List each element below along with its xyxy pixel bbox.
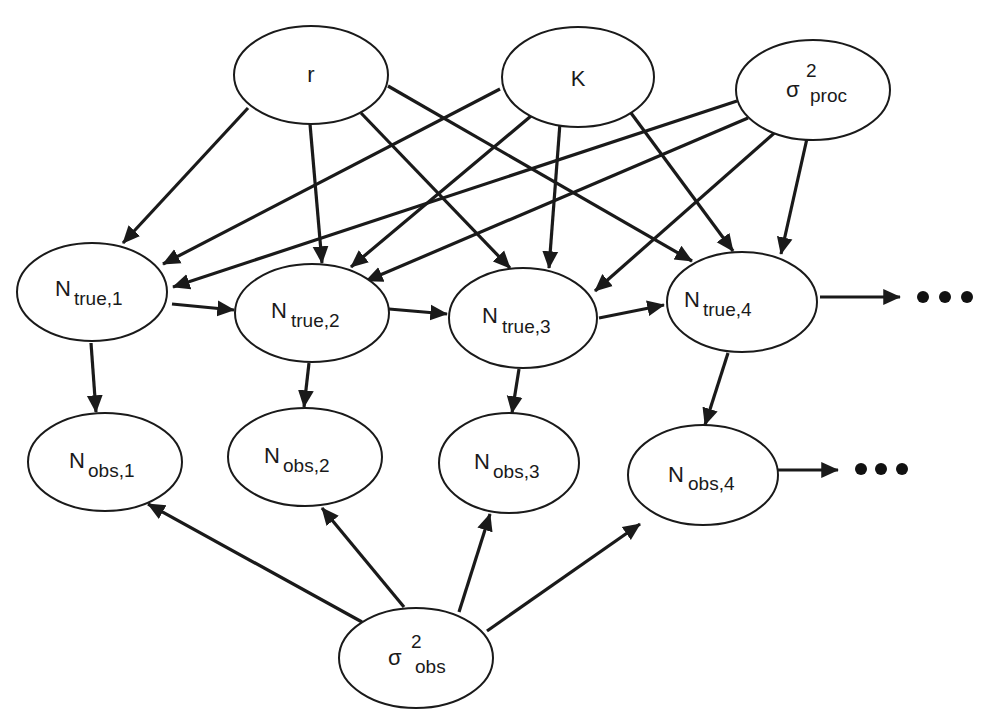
node-nobs2-base: N <box>264 443 280 468</box>
edge-ntrue3-to-ntrue4 <box>599 305 664 318</box>
continuation-true-dots-icon <box>917 291 973 303</box>
node-sigma-obs-base: σ <box>388 645 402 670</box>
node-ntrue1: N true,1 <box>17 243 167 341</box>
node-sigma-proc: σ 2 proc <box>736 40 890 140</box>
node-nobs3-sub: obs,3 <box>493 461 539 482</box>
node-ntrue2-sub: true,2 <box>291 310 340 331</box>
edge-ntrue1-to-ntrue2 <box>172 304 234 310</box>
node-sigma-proc-sub: proc <box>810 85 847 106</box>
node-K: K <box>502 27 654 127</box>
node-ntrue1-sub: true,1 <box>74 288 123 309</box>
node-sigma-obs: σ 2 obs <box>339 608 493 708</box>
edge-ntrue3-to-nobs3 <box>512 369 519 413</box>
node-ntrue4-sub: true,4 <box>703 299 752 320</box>
node-nobs1: N obs,1 <box>28 413 182 511</box>
edge-K-to-ntrue3 <box>549 123 560 268</box>
edge-sigmaobs-to-nobs3 <box>459 514 490 612</box>
node-nobs2-sub: obs,2 <box>283 455 329 476</box>
node-r: r <box>234 26 388 124</box>
node-ntrue4-base: N <box>684 287 700 312</box>
node-nobs4-sub: obs,4 <box>688 473 735 494</box>
state-space-model-diagram: r K σ 2 proc N true,1 N true,2 N true,3 … <box>0 0 990 726</box>
node-ntrue2-base: N <box>271 298 287 323</box>
node-ntrue3-base: N <box>482 303 498 328</box>
edge-sigmaobs-to-nobs4 <box>487 524 640 631</box>
node-sigma-obs-sup: 2 <box>411 631 422 652</box>
node-sigma-proc-sup: 2 <box>806 60 817 81</box>
edge-r-to-ntrue3 <box>361 113 510 268</box>
node-sigma-proc-base: σ <box>786 77 800 102</box>
edge-ntrue2-to-ntrue3 <box>389 309 447 314</box>
node-ntrue4: N true,4 <box>667 252 817 352</box>
node-ntrue3-sub: true,3 <box>502 316 551 337</box>
edge-ntrue1-to-nobs1 <box>91 343 96 412</box>
node-K-label: K <box>571 66 586 91</box>
node-ntrue1-base: N <box>55 276 71 301</box>
edge-sigmaproc-to-ntrue4 <box>781 134 808 254</box>
node-nobs4-base: N <box>668 462 684 487</box>
edge-ntrue2-to-nobs2 <box>304 363 309 407</box>
node-ntrue3: N true,3 <box>449 268 597 368</box>
edge-sigmaobs-to-nobs2 <box>322 508 404 607</box>
node-nobs4: N obs,4 <box>628 425 778 525</box>
node-sigma-obs-sub: obs <box>415 656 446 677</box>
node-nobs1-sub: obs,1 <box>88 460 134 481</box>
node-nobs3-base: N <box>474 449 490 474</box>
node-ntrue2: N true,2 <box>235 264 389 362</box>
edge-ntrue4-to-nobs4 <box>705 353 728 425</box>
node-nobs3: N obs,3 <box>439 413 579 513</box>
node-r-label: r <box>307 62 314 87</box>
node-nobs2: N obs,2 <box>228 408 382 506</box>
edge-sigmaobs-to-nobs1 <box>148 504 362 622</box>
edge-sigmaproc-to-ntrue1 <box>173 101 737 287</box>
edge-K-to-ntrue2 <box>351 111 537 267</box>
node-nobs1-base: N <box>69 448 85 473</box>
edge-r-to-ntrue1 <box>123 108 248 243</box>
continuation-obs-dots-icon <box>855 463 908 475</box>
